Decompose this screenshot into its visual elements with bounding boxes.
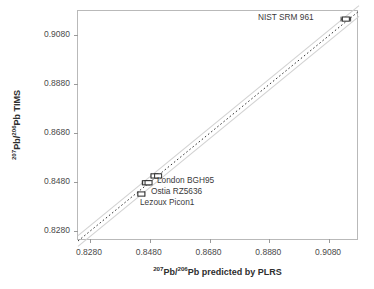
x-axis-tick (210, 239, 211, 243)
y-axis-tick (74, 35, 78, 36)
y-axis-tick-label: 0.8480 (44, 177, 70, 186)
x-axis-tick (150, 239, 151, 243)
y-axis-tick (74, 182, 78, 183)
y-axis-tick (74, 231, 78, 232)
x-axis-title-tail: Pb predicted by PLRS (188, 267, 282, 277)
data-point-unlabelled-a (145, 180, 152, 185)
x-axis-tick-label: 0.8480 (136, 248, 162, 257)
marker-box (138, 192, 145, 196)
x-axis-tick-label: 0.8880 (255, 248, 281, 257)
y-axis-title-sup-206: 206 (10, 125, 17, 135)
plot-area (77, 10, 358, 240)
data-point-nist-srm-961 (341, 17, 351, 22)
y-axis-title: 207Pb/206Pb TIMS (8, 10, 26, 240)
point-annotation-nist-srm-961: NIST SRM 961 (258, 13, 314, 21)
y-axis-tick-label: 0.8680 (44, 128, 70, 137)
x-axis-tick-label: 0.9080 (315, 248, 341, 257)
x-axis-tick (269, 239, 270, 243)
y-axis-tick-label: 0.8880 (44, 79, 70, 88)
x-axis-title: 207Pb/206Pb predicted by PLRS (77, 267, 358, 277)
point-annotation-london-bgh95: London BGH95 (157, 176, 214, 184)
x-axis-title-sup-207: 207 (153, 265, 163, 272)
y-axis-tick-label: 0.9080 (44, 30, 70, 39)
y-axis-title-mid: Pb/ (12, 136, 22, 150)
y-axis-title-sup-207: 207 (10, 150, 17, 160)
x-axis-tick-label: 0.8280 (76, 248, 102, 257)
scatter-plot-figure: 207Pb/206Pb TIMS 207Pb/206Pb predicted b… (0, 0, 374, 289)
y-axis-tick (74, 84, 78, 85)
x-axis-tick (90, 239, 91, 243)
x-axis-title-sup-206: 206 (177, 265, 187, 272)
point-annotation-ostia-rz5636: Ostia RZ5636 (151, 187, 202, 195)
marker-box (145, 181, 152, 185)
data-point-markers (78, 11, 359, 241)
y-axis-tick-label: 0.8280 (44, 226, 70, 235)
marker-box (342, 17, 349, 21)
data-point-lezoux-picon1 (138, 192, 145, 197)
y-axis-tick (74, 133, 78, 134)
point-annotation-lezoux-picon1: Lezoux Picon1 (140, 198, 194, 206)
y-axis-title-tail: Pb TIMS (12, 90, 22, 126)
x-axis-tick-label: 0.8680 (196, 248, 222, 257)
x-axis-title-mid: Pb/ (163, 267, 177, 277)
x-axis-tick (329, 239, 330, 243)
